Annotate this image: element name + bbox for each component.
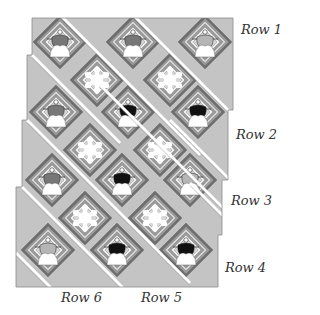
angel-wings — [125, 35, 141, 47]
row-label-3: Row 3 — [231, 193, 272, 208]
snowflake-branch — [90, 73, 91, 77]
snowflake-branch — [145, 221, 149, 222]
snowflake-branch — [96, 147, 100, 148]
angel-wings — [114, 173, 130, 185]
snowflake-branch — [91, 222, 92, 226]
snowflake-center — [79, 212, 91, 224]
angel-head — [120, 168, 124, 172]
angel-head — [184, 238, 188, 242]
snowflake-branch — [163, 73, 164, 77]
angel-head — [196, 100, 200, 104]
snowflake-branch — [78, 211, 79, 215]
angel-wings — [44, 173, 60, 185]
angel-head — [58, 30, 62, 34]
angel-wings — [52, 35, 68, 47]
snowflake-branch — [176, 84, 177, 88]
snowflake-branch — [153, 143, 154, 147]
angel-head — [115, 238, 119, 242]
angel-head — [54, 100, 58, 104]
angel-head — [46, 238, 50, 242]
angel-wings — [197, 35, 213, 47]
angel-wings — [178, 243, 194, 255]
angel-head — [126, 100, 130, 104]
snowflake-center — [149, 212, 161, 224]
snowflake-center — [84, 144, 96, 156]
snowflake-branch — [148, 211, 149, 215]
angel-head — [50, 168, 54, 172]
snowflake-branch — [83, 143, 84, 147]
snowflake-branch — [91, 215, 95, 216]
row-label-6: Row 6 — [61, 290, 102, 305]
snowflake-branch — [161, 222, 162, 226]
row-label-1: Row 1 — [241, 22, 282, 37]
snowflake-branch — [80, 153, 84, 154]
snowflake-branch — [96, 154, 97, 158]
row-label-5: Row 5 — [141, 290, 182, 305]
angel-wings — [109, 243, 125, 255]
angel-head — [203, 30, 207, 34]
angel-wings — [48, 105, 64, 117]
snowflake-center — [164, 74, 176, 86]
snowflake-branch — [161, 215, 165, 216]
angel-wings — [190, 105, 206, 117]
row-label-2: Row 2 — [236, 127, 277, 142]
snowflake-branch — [166, 147, 170, 148]
snowflake-branch — [75, 221, 79, 222]
angel-head — [131, 30, 135, 34]
angel-wings — [40, 243, 56, 255]
snowflake-branch — [160, 83, 164, 84]
row-label-4: Row 4 — [225, 260, 266, 275]
snowflake-branch — [87, 83, 91, 84]
snowflake-branch — [150, 153, 154, 154]
snowflake-branch — [176, 77, 180, 78]
snowflake-branch — [103, 77, 107, 78]
